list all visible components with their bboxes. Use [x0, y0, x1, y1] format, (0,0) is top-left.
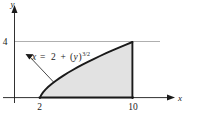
y-tick-label-4: 4: [3, 37, 8, 47]
x-axis-label: x: [177, 93, 182, 103]
x-axis-arrowhead: [167, 95, 175, 101]
y-axis-label: y: [10, 0, 15, 9]
x-tick-label-10: 10: [128, 102, 138, 112]
equation-close-paren: ): [79, 52, 82, 63]
equation-equals-sign: =: [40, 52, 45, 62]
region-plot: x y 4 2 10 x = 2 + ( y ) 3/2: [0, 0, 198, 117]
equation-lhs: x: [31, 52, 37, 62]
x-tick-label-2: 2: [37, 102, 42, 112]
equation-plus-sign: +: [61, 52, 66, 62]
equation-constant: 2: [51, 52, 56, 62]
figure-container: x y 4 2 10 x = 2 + ( y ) 3/2: [0, 0, 198, 117]
equation-annotation: x = 2 + ( y ) 3/2: [31, 51, 90, 63]
equation-exponent: 3/2: [82, 51, 90, 57]
